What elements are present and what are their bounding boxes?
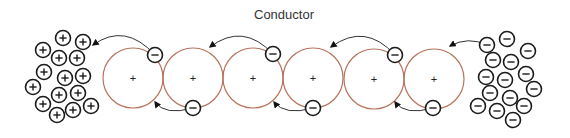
nucleus-plus-label: +: [190, 72, 196, 84]
electron: [306, 101, 321, 116]
negative-charge: [506, 113, 521, 128]
positive-charge-cluster: [26, 31, 99, 123]
negative-charge: [483, 86, 498, 101]
negative-charge-cluster: [471, 32, 542, 128]
negative-charge: [503, 91, 518, 106]
electron: [388, 48, 403, 63]
negative-charge: [471, 99, 486, 114]
positive-charge: [52, 51, 67, 66]
positive-charge: [36, 97, 51, 112]
electron: [426, 101, 441, 116]
conductor-atom: +: [163, 48, 223, 108]
negative-charge: [479, 70, 494, 85]
electron: [266, 47, 281, 62]
electron: [186, 101, 201, 116]
negative-charge: [517, 99, 532, 114]
positive-charge: [66, 103, 81, 118]
negative-charge: [498, 73, 513, 88]
diagram-title: Conductor: [254, 7, 315, 22]
negative-charge: [527, 82, 542, 97]
negative-charge: [480, 38, 495, 53]
nucleus-plus-label: +: [431, 73, 437, 85]
nucleus-plus-label: +: [250, 72, 256, 84]
negative-charge: [504, 55, 519, 70]
flow-arrow-icon: [93, 36, 155, 55]
electron-flow-arrows: [93, 36, 487, 111]
nucleus-plus-label: +: [371, 73, 377, 85]
flow-arrow-icon: [210, 36, 273, 54]
electron: [148, 48, 163, 63]
positive-charge: [26, 80, 41, 95]
negative-charge: [490, 104, 505, 119]
positive-charge: [84, 99, 99, 114]
positive-charge: [56, 31, 71, 46]
positive-charge: [37, 65, 52, 80]
negative-charge: [500, 32, 515, 47]
positive-charge: [70, 51, 85, 66]
positive-charge: [52, 88, 67, 103]
negative-charge: [521, 44, 536, 59]
positive-charge: [36, 43, 51, 58]
positive-charge: [50, 108, 65, 123]
negative-charge: [519, 67, 534, 82]
conductor-atom: +: [283, 48, 343, 108]
flow-arrow-icon: [331, 36, 395, 55]
positive-charge: [58, 71, 73, 86]
negative-charge: [486, 53, 501, 68]
nucleus-plus-label: +: [310, 72, 316, 84]
positive-charge: [76, 35, 91, 50]
positive-charge: [76, 69, 91, 84]
conductor-diagram: Conductor ++++++: [0, 0, 570, 138]
nucleus-plus-label: +: [130, 72, 136, 84]
positive-charge: [71, 86, 86, 101]
